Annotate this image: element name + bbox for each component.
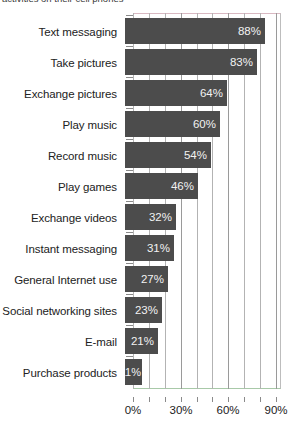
bar[interactable]: 31% (125, 235, 174, 261)
y-axis-tick (126, 77, 133, 78)
bar-track: 21% (125, 326, 295, 357)
x-axis-tick-90 (276, 397, 277, 402)
category-label: E-mail (0, 336, 125, 348)
category-label: General Internet use (0, 274, 125, 286)
x-axis-label-90: 90% (264, 404, 287, 416)
x-axis-label-60: 60% (216, 404, 239, 416)
y-axis-tick (126, 15, 133, 16)
bar[interactable]: 11% (125, 359, 142, 385)
category-label: Social networking sites (0, 305, 125, 317)
chart-row: Take pictures83% (0, 47, 295, 78)
chart-row: E-mail21% (0, 326, 295, 357)
chart-rows: Text messaging88%Take pictures83%Exchang… (0, 16, 295, 388)
x-axis-tick-30 (181, 397, 182, 402)
y-axis-tick (126, 325, 133, 326)
bar[interactable]: 64% (125, 80, 227, 106)
x-axis-tick-50 (212, 397, 213, 402)
category-label: Play music (0, 119, 125, 131)
bar-track: 88% (125, 16, 295, 47)
chart-row: Text messaging88% (0, 16, 295, 47)
bar[interactable]: 54% (125, 142, 211, 168)
bar-track: 27% (125, 264, 295, 295)
bar-value-label: 31% (147, 242, 174, 254)
bar-value-label: 46% (171, 180, 198, 192)
bar[interactable]: 27% (125, 266, 168, 292)
bar-track: 11% (125, 357, 295, 388)
bar[interactable]: 46% (125, 173, 198, 199)
category-label: Text messaging (0, 26, 125, 38)
y-axis-tick (126, 294, 133, 295)
chart-row: Exchange videos32% (0, 202, 295, 233)
y-axis-tick (126, 46, 133, 47)
x-axis-label-0: 0% (125, 404, 142, 416)
y-axis-tick (126, 232, 133, 233)
bar-track: 23% (125, 295, 295, 326)
bar[interactable]: 88% (125, 18, 265, 44)
bar-value-label: 21% (131, 335, 158, 347)
bar[interactable]: 32% (125, 204, 176, 230)
x-axis-tick-70 (244, 397, 245, 402)
chart-row: Social networking sites23% (0, 295, 295, 326)
bar-value-label: 32% (149, 211, 176, 223)
y-axis-tick (126, 356, 133, 357)
chart-row: Play games46% (0, 171, 295, 202)
x-axis-tick-80 (260, 397, 261, 402)
chart-row: General Internet use27% (0, 264, 295, 295)
category-label: Record music (0, 150, 125, 162)
category-label: Purchase products (0, 367, 125, 379)
x-axis-label-30: 30% (169, 404, 192, 416)
bar-track: 31% (125, 233, 295, 264)
category-label: Exchange pictures (0, 88, 125, 100)
bar[interactable]: 21% (125, 328, 158, 354)
bar-chart: Text messaging88%Take pictures83%Exchang… (0, 8, 295, 423)
chart-row: Purchase products11% (0, 357, 295, 388)
clipped-caption: activities on their cell phones (0, 0, 295, 5)
x-axis-tick-10 (149, 397, 150, 402)
caption-text: activities on their cell phones (0, 0, 295, 5)
bar-track: 46% (125, 171, 295, 202)
y-axis-tick (126, 263, 133, 264)
bar-value-label: 64% (200, 87, 227, 99)
category-label: Instant messaging (0, 243, 125, 255)
y-axis-tick (126, 108, 133, 109)
x-axis-tick-0 (133, 397, 134, 402)
y-axis-tick (126, 139, 133, 140)
bar-value-label: 54% (184, 149, 211, 161)
chart-row: Record music54% (0, 140, 295, 171)
bar-track: 60% (125, 109, 295, 140)
category-label: Play games (0, 181, 125, 193)
x-axis: 0%30%60%90% (0, 397, 295, 423)
bar-value-label: 83% (230, 56, 257, 68)
y-axis-tick (126, 201, 133, 202)
chart-row: Exchange pictures64% (0, 78, 295, 109)
bar-value-label: 23% (135, 304, 162, 316)
x-axis-tick-20 (165, 397, 166, 402)
category-label: Take pictures (0, 57, 125, 69)
bar-track: 32% (125, 202, 295, 233)
bar-track: 83% (125, 47, 295, 78)
chart-row: Instant messaging31% (0, 233, 295, 264)
category-label: Exchange videos (0, 212, 125, 224)
y-axis-tick (126, 170, 133, 171)
bar[interactable]: 83% (125, 49, 257, 75)
bar-value-label: 60% (193, 118, 220, 130)
bar[interactable]: 23% (125, 297, 162, 323)
x-axis-tick-40 (197, 397, 198, 402)
bar-value-label: 27% (141, 273, 168, 285)
chart-row: Play music60% (0, 109, 295, 140)
x-axis-tick-60 (228, 397, 229, 402)
bar-value-label: 88% (238, 25, 265, 37)
bar[interactable]: 60% (125, 111, 220, 137)
bar-track: 64% (125, 78, 295, 109)
bar-track: 54% (125, 140, 295, 171)
